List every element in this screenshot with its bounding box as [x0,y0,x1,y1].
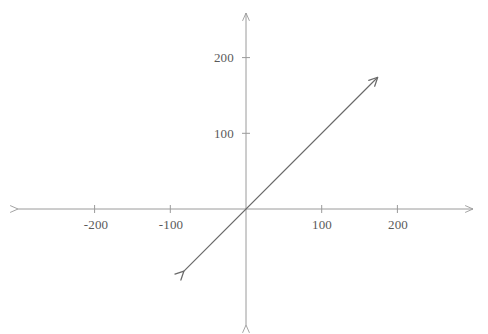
data-series-group [184,77,378,271]
x-tick-label-100: 100 [312,218,332,231]
y-tick-label-200: 200 [214,51,234,64]
coordinate-plane-figure: -200-100100200 200100 [0,0,488,334]
line-y-equals-x [184,77,378,271]
x-tick-label--100: -100 [159,218,184,231]
axes-group [18,13,473,325]
x-tick-label--200: -200 [84,218,109,231]
y-tick-label-100: 100 [214,127,234,140]
cartesian-plot-svg [0,0,488,334]
x-tick-label-200: 200 [388,218,408,231]
